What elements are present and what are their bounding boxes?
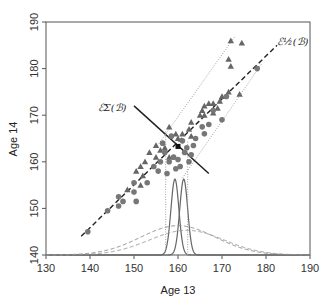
circle-point — [85, 229, 91, 235]
x-axis-ticks: 130140150160170180190 — [37, 255, 319, 274]
circle-point — [116, 203, 122, 209]
circle-point — [193, 136, 199, 142]
circle-point — [120, 199, 126, 205]
annotation-sigma-ellipse: ℰΣ(ℬ) — [98, 102, 127, 113]
circle-point — [224, 94, 230, 100]
line-upper-band — [156, 36, 235, 148]
triangle-point — [206, 100, 212, 106]
y-axis-ticks: 140150160170180190 — [28, 13, 46, 264]
triangle-point — [137, 182, 143, 188]
triangle-point — [239, 40, 245, 46]
density-curve-narrow-left — [46, 179, 310, 255]
center-marker — [176, 144, 181, 149]
y-tick-label: 160 — [28, 153, 40, 171]
circle-point — [188, 152, 194, 158]
circle-point — [131, 180, 137, 186]
circle-point — [254, 66, 260, 72]
scatter-chart: 140150160170180190 130140150160170180190… — [0, 0, 332, 303]
circle-point — [105, 208, 111, 214]
density-curve-narrow-right — [46, 179, 310, 255]
circle-point — [206, 122, 212, 128]
circle-point — [173, 166, 179, 172]
data-points — [85, 37, 260, 234]
y-axis-title: Age 14 — [7, 122, 19, 157]
x-tick-label: 130 — [37, 262, 55, 274]
circle-point — [116, 194, 122, 200]
circle-point — [186, 159, 192, 165]
triangle-point — [225, 56, 231, 62]
density-curves — [46, 179, 310, 255]
y-tick-label: 150 — [28, 199, 40, 217]
circle-point — [210, 108, 216, 114]
triangle-point — [179, 131, 185, 137]
circle-point — [191, 143, 197, 149]
circle-point — [131, 189, 137, 195]
circle-point — [155, 168, 161, 174]
circle-point — [144, 180, 150, 186]
triangle-point — [228, 63, 234, 69]
circle-point — [199, 124, 205, 130]
circle-point — [182, 150, 188, 156]
triangle-point — [166, 124, 172, 130]
circle-point — [166, 159, 172, 165]
circle-point — [180, 138, 186, 144]
x-tick-label: 140 — [81, 262, 99, 274]
y-tick-label: 180 — [28, 59, 40, 77]
x-tick-label: 160 — [169, 262, 187, 274]
circle-point — [160, 140, 166, 146]
circle-point — [158, 159, 164, 165]
x-tick-label: 150 — [125, 262, 143, 274]
circle-point — [171, 154, 177, 160]
triangle-point — [236, 91, 242, 97]
y-tick-label: 190 — [28, 13, 40, 31]
annotation-half-ellipse: ℰ½(ℬ) — [277, 36, 309, 47]
annotations: ℰΣ(ℬ)ℰ½(ℬ) — [98, 36, 309, 112]
x-tick-label: 190 — [301, 262, 319, 274]
circle-point — [219, 117, 225, 123]
circle-point — [202, 131, 208, 137]
circle-point — [151, 164, 157, 170]
x-tick-label: 170 — [213, 262, 231, 274]
triangle-point — [146, 149, 152, 155]
x-axis-title: Age 13 — [161, 284, 196, 296]
triangle-point — [142, 159, 148, 165]
circle-point — [162, 150, 168, 156]
triangle-point — [228, 37, 234, 43]
y-tick-label: 170 — [28, 106, 40, 124]
x-tick-label: 180 — [257, 262, 275, 274]
circle-point — [164, 171, 170, 177]
triangle-point — [153, 154, 159, 160]
density-curve-wide-lower — [46, 230, 310, 255]
circle-point — [169, 133, 175, 139]
triangle-point — [188, 119, 194, 125]
circle-point — [133, 199, 139, 205]
